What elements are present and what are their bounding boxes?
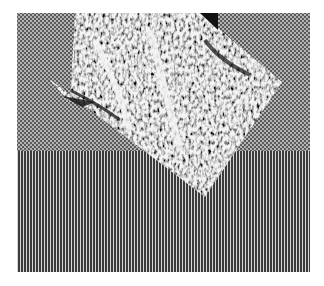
stripe-field xyxy=(17,151,310,272)
image-canvas: Binary halftone test image: grey checker… xyxy=(0,0,324,286)
halftone-artwork xyxy=(0,0,324,286)
